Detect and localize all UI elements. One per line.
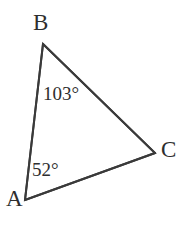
triangle-drawing	[0, 0, 186, 225]
geometry-figure: B A C 103° 52°	[0, 0, 186, 225]
angle-measure-at-a: 52°	[32, 160, 59, 179]
vertex-label-c: C	[161, 138, 176, 161]
angle-measure-at-b: 103°	[43, 84, 79, 103]
vertex-label-a: A	[6, 187, 23, 210]
vertex-label-b: B	[33, 11, 48, 34]
